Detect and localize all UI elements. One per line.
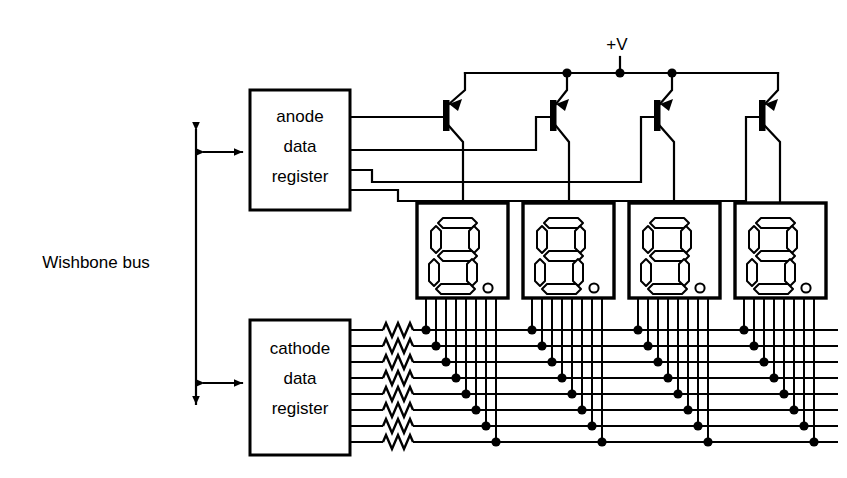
junction-dot [577,405,586,414]
segment-b [787,226,797,253]
junction-dot [633,325,642,334]
segment-e [429,259,439,286]
anode-data-register-line-2: data [283,137,317,156]
segment-c [785,259,795,286]
junction-dot [471,405,480,414]
collector-lead-1 [449,126,463,203]
decimal-point [801,283,810,292]
cathode-data-register-line-2: data [283,369,317,388]
circuit-diagram: Wishbone bus +V [0,0,847,478]
junction-dot [643,341,652,350]
segment-b [469,226,479,253]
cathode-resistor-6 [383,403,413,417]
junction-dot [421,325,430,334]
segment-d [754,284,793,294]
junction-dot [769,373,778,382]
junction-dot [779,389,788,398]
segment-c [573,259,583,286]
power-rail: +V [465,35,778,78]
junction-dot [663,373,672,382]
junction-dot [789,405,798,414]
collector-lead-2 [556,126,569,203]
decimal-point [589,283,598,292]
segment-f [431,226,441,253]
cathode-resistor-3 [383,355,413,369]
anode-base-wire-2 [350,117,550,150]
junction-dot [481,421,490,430]
segment-f [537,226,547,253]
segment-a [650,218,689,228]
seven-segment-display-1[interactable] [417,203,508,298]
segment-e [641,259,651,286]
display-2-pins [527,298,606,447]
junction-dot [557,373,566,382]
junction-dot [799,421,808,430]
segment-d [436,284,475,294]
junction-dot [491,437,500,446]
collector-lead-3 [660,126,674,203]
segment-b [575,226,585,253]
junction-dot [749,341,758,350]
cathode-data-register[interactable]: cathode data register [250,320,350,455]
cathode-resistor-1 [383,323,413,337]
segment-d [648,284,687,294]
display-3-pins [633,298,712,447]
segment-d [542,284,581,294]
junction-dot [441,357,450,366]
junction-dot [597,437,606,446]
segment-a [544,218,583,228]
cathode-resistor-7 [383,419,413,433]
junction-dot [547,357,556,366]
transistor-base-bars [443,100,766,131]
emitter-lead-3 [660,73,672,104]
junction-dot [673,389,682,398]
cathode-data-register-line-3: register [272,399,329,418]
cathode-resistor-5 [383,387,413,401]
junction-dot [693,421,702,430]
cathode-resistor-4 [383,371,413,385]
wishbone-bus-label: Wishbone bus [42,253,150,272]
segment-a [438,218,477,228]
anode-data-register-line-3: register [272,167,329,186]
emitter-lead-4 [765,73,778,104]
segment-a [756,218,795,228]
decimal-point [695,283,704,292]
segment-b [681,226,691,253]
seven-segment-display-4[interactable] [735,203,826,298]
junction-dot [527,325,536,334]
junction-dot [809,437,818,446]
junction-dot [461,389,470,398]
schematic-canvas: Wishbone bus +V [0,0,847,478]
segment-e [747,259,757,286]
emitter-lead-2 [556,73,567,104]
power-rail-label: +V [606,35,628,54]
segment-e [535,259,545,286]
cathode-data-register-line-1: cathode [270,339,331,358]
segment-f [749,226,759,253]
display-4-pins [739,298,818,447]
anode-data-register[interactable]: anode data register [250,90,350,210]
pnp-emitter-arrow-1 [449,99,462,111]
display-1-pins [421,298,500,447]
seven-segment-display-3[interactable] [629,203,720,298]
cathode-resistor-2 [383,339,413,353]
collector-lead-4 [765,126,780,203]
junction-dot [683,405,692,414]
segment-c [467,259,477,286]
junction-dot [759,357,768,366]
emitter-lead-1 [449,73,465,104]
junction-dot [537,341,546,350]
junction-dot [615,68,624,77]
junction-dot [567,389,576,398]
junction-dot [653,357,662,366]
junction-dot [451,373,460,382]
junction-dot [703,437,712,446]
anode-data-register-line-1: anode [276,107,323,126]
seven-segment-display-2[interactable] [523,203,614,298]
segment-f [643,226,653,253]
junction-dot [587,421,596,430]
segment-c [679,259,689,286]
emitter-leads [449,73,778,111]
wishbone-bus: Wishbone bus [42,130,242,404]
decimal-point [483,283,492,292]
